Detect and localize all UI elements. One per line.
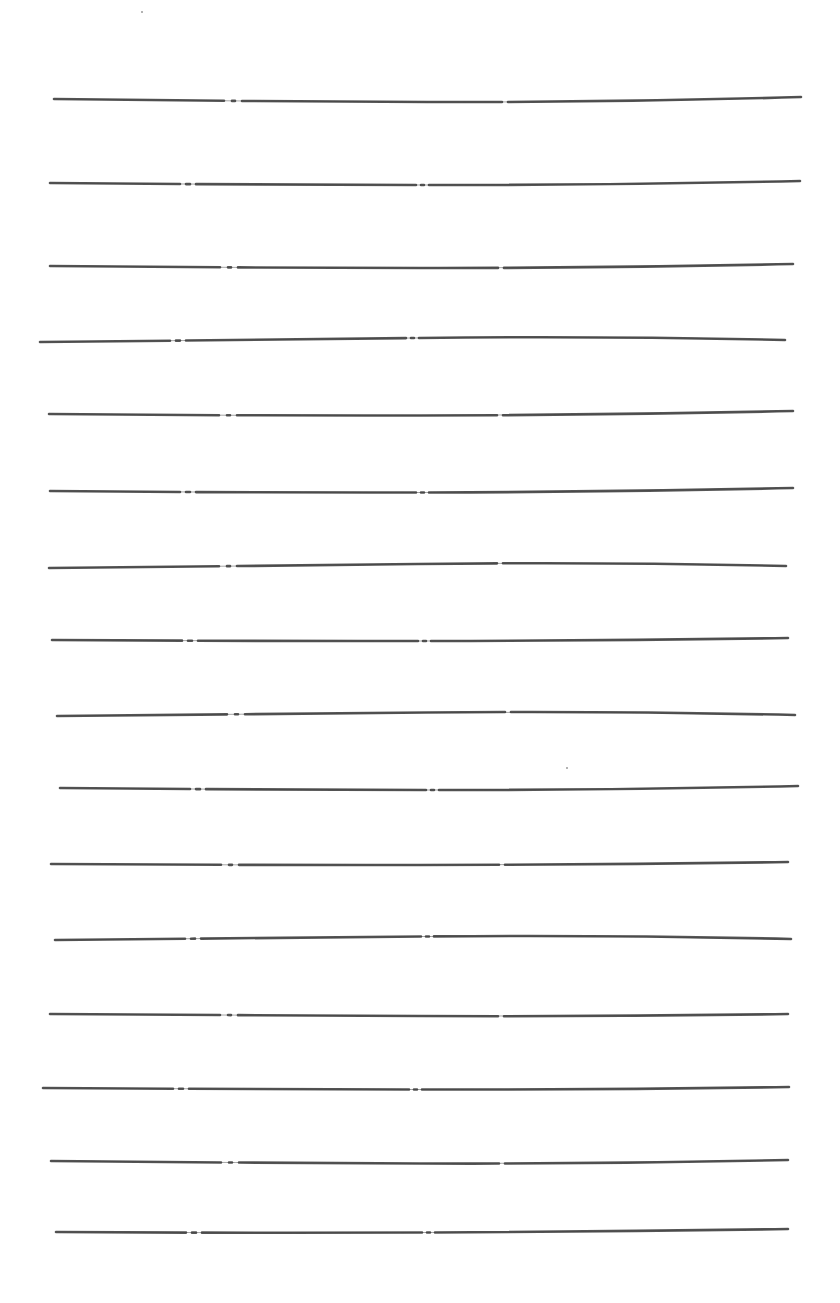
paper-speck — [141, 11, 143, 13]
paper-speck — [566, 767, 568, 769]
lined-sheet — [0, 0, 840, 1303]
ruled-lines — [40, 97, 801, 1233]
